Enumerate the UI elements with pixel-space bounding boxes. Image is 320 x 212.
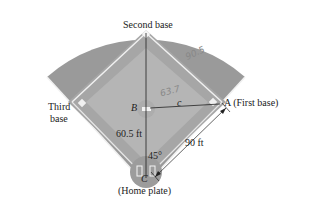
label-angle: 45° (148, 150, 162, 161)
label-first-base: A (First base) (224, 97, 278, 108)
label-third-base-line2: base (50, 113, 68, 124)
label-second-base: Second base (123, 19, 173, 30)
label-dist-mound: 60.5 ft (116, 128, 142, 139)
label-point-c: C (141, 173, 148, 184)
label-home-plate: (Home plate) (118, 185, 171, 196)
label-third-base-line1: Third (48, 101, 70, 112)
pitchers-rubber (142, 107, 151, 111)
label-side-c: c (177, 97, 181, 108)
label-point-b: B (131, 102, 137, 113)
label-dist-base: 90 ft (185, 137, 204, 148)
